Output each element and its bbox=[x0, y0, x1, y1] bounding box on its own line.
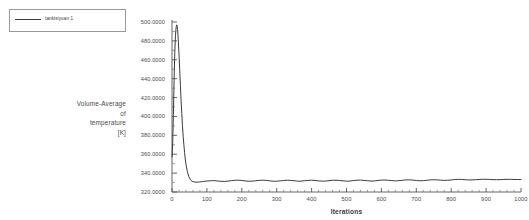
x-axis-ticks bbox=[172, 188, 521, 192]
x-tick-label: 200 bbox=[228, 196, 256, 202]
y-axis-title-line-2: of bbox=[38, 109, 126, 119]
y-tick-label: 420.0000 bbox=[140, 95, 165, 101]
x-axis-title: Iterations bbox=[172, 208, 521, 216]
x-tick-label: 100 bbox=[193, 196, 221, 202]
y-tick-label: 460.0000 bbox=[140, 57, 165, 63]
data-series-line bbox=[172, 25, 521, 182]
plot-area: 320.0000340.0000360.0000380.0000400.0000… bbox=[140, 14, 525, 218]
chart-figure: tankisiyuan 1 Volume-Average of temperat… bbox=[0, 0, 529, 220]
y-tick-label: 380.0000 bbox=[140, 132, 165, 138]
plot-canvas bbox=[140, 14, 525, 218]
x-tick-label: 600 bbox=[367, 196, 395, 202]
x-tick-label: 0 bbox=[158, 196, 186, 202]
x-tick-label: 700 bbox=[402, 196, 430, 202]
y-tick-label: 360.0000 bbox=[140, 151, 165, 157]
y-axis-title-line-3: temperature bbox=[38, 118, 126, 128]
x-tick-label: 400 bbox=[298, 196, 326, 202]
legend-entry-label: tankisiyuan 1 bbox=[45, 16, 73, 22]
y-tick-label: 340.0000 bbox=[140, 170, 165, 176]
y-tick-label: 400.0000 bbox=[140, 113, 165, 119]
y-tick-label: 480.0000 bbox=[140, 38, 165, 44]
x-tick-label: 500 bbox=[333, 196, 361, 202]
x-tick-label: 300 bbox=[263, 196, 291, 202]
y-axis-title: Volume-Average of temperature [K] bbox=[38, 99, 126, 137]
legend-line-swatch-icon bbox=[15, 19, 41, 20]
y-tick-label: 320.0000 bbox=[140, 189, 165, 195]
x-tick-label: 1000 bbox=[507, 196, 529, 202]
axis-spines bbox=[172, 20, 521, 192]
y-tick-label: 500.0000 bbox=[140, 19, 165, 25]
y-axis-title-line-4: [K] bbox=[38, 128, 126, 138]
chart-legend: tankisiyuan 1 bbox=[9, 9, 126, 32]
x-tick-label: 900 bbox=[472, 196, 500, 202]
y-axis-title-line-1: Volume-Average bbox=[38, 99, 126, 109]
y-tick-label: 440.0000 bbox=[140, 76, 165, 82]
legend-entry: tankisiyuan 1 bbox=[15, 16, 73, 22]
x-tick-label: 800 bbox=[437, 196, 465, 202]
